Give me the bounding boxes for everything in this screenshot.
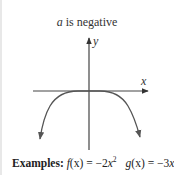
- examples-label: Examples:: [12, 157, 64, 169]
- x-axis-label: x: [140, 74, 147, 88]
- curve-right: [89, 91, 140, 137]
- examples-line: Examples: f(x) = −2x2g(x) = −3x4: [12, 157, 174, 169]
- plot-area: x y: [0, 0, 174, 175]
- curve-left: [40, 91, 89, 139]
- y-axis-label: y: [92, 34, 99, 48]
- example-f: f(x) = −2x2: [67, 157, 117, 169]
- example-g: g(x) = −3x4: [126, 157, 174, 169]
